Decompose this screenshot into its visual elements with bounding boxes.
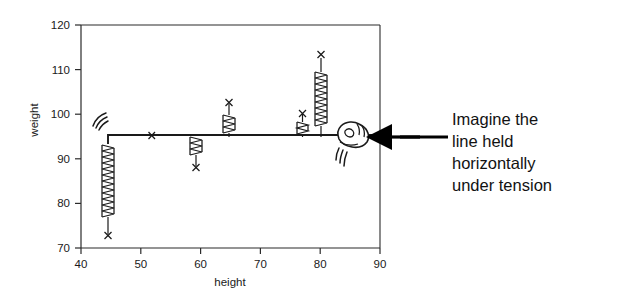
annotation-line-1: Imagine the	[452, 108, 632, 130]
figure-stage: 70 80 90 100 110 120 40 50 60 70	[0, 0, 638, 306]
spring-marker-1	[102, 145, 114, 239]
annotation-line-2: line held	[452, 130, 632, 152]
annotation-line-3: horizontally	[452, 152, 632, 174]
x-tick-label-40: 40	[75, 258, 88, 270]
y-tick-label-70: 70	[57, 242, 70, 254]
y-tick-label-120: 120	[51, 19, 70, 31]
spring-marker-3	[190, 137, 202, 171]
gripping-hand-icon	[338, 122, 369, 147]
spring-marker-4	[223, 99, 235, 137]
y-tick-label-100: 100	[51, 108, 70, 120]
annotation-text-block: Imagine the line held horizontally under…	[452, 108, 632, 196]
motion-arcs-left-icon	[93, 113, 108, 130]
annotation-line-4: under tension	[452, 174, 632, 196]
y-tick-label-110: 110	[52, 64, 70, 76]
spring-marker-5	[297, 110, 308, 137]
tension-arrow-icon	[366, 124, 420, 150]
spring-marker-6	[315, 51, 327, 137]
x-tick-label-90: 90	[374, 258, 387, 270]
x-tick-label-60: 60	[194, 258, 207, 270]
y-axis-ticks	[75, 25, 81, 248]
motion-arcs-right-icon	[336, 148, 347, 166]
x-tick-label-70: 70	[254, 258, 267, 270]
data-point-marker-6	[318, 51, 325, 58]
chart-figure: 70 80 90 100 110 120 40 50 60 70	[0, 0, 420, 306]
y-tick-label-90: 90	[57, 153, 70, 165]
chart-svg: 70 80 90 100 110 120 40 50 60 70	[0, 0, 420, 306]
y-axis-tick-labels: 70 80 90 100 110 120	[51, 19, 70, 254]
x-axis-title: height	[214, 276, 246, 288]
plot-frame	[81, 25, 380, 248]
y-axis-title: weight	[28, 103, 40, 138]
y-tick-label-80: 80	[57, 197, 70, 209]
x-tick-label-80: 80	[314, 258, 327, 270]
x-axis-tick-labels: 40 50 60 70 80 90	[75, 258, 387, 270]
x-axis-ticks	[81, 248, 380, 254]
x-tick-label-50: 50	[134, 258, 147, 270]
